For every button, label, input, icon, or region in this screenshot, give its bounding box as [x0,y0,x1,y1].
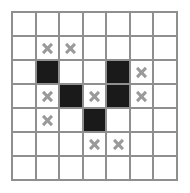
grid-cell[interactable] [13,37,37,61]
grid-cell[interactable] [107,13,131,37]
grid-cell[interactable] [60,133,84,157]
x-mark-icon [41,42,54,55]
grid-cell[interactable] [107,157,131,181]
grid-cell[interactable] [37,13,61,37]
x-mark-icon [64,42,77,55]
grid-cell[interactable] [37,85,61,109]
grid-cell[interactable] [60,37,84,61]
grid-cell[interactable] [60,85,84,109]
grid-cell[interactable] [37,157,61,181]
grid-cell[interactable] [84,13,108,37]
puzzle-grid[interactable] [11,11,178,181]
grid-cell[interactable] [37,133,61,157]
grid-cell[interactable] [154,37,178,61]
puzzle-grid-container [11,11,178,181]
grid-cell[interactable] [154,85,178,109]
grid-cell[interactable] [107,133,131,157]
grid-cell[interactable] [131,157,155,181]
grid-cell[interactable] [84,157,108,181]
grid-cell[interactable] [131,109,155,133]
grid-cell[interactable] [13,13,37,37]
grid-cell[interactable] [84,133,108,157]
grid-cell[interactable] [60,61,84,85]
grid-cell[interactable] [13,109,37,133]
grid-cell[interactable] [37,61,61,85]
x-mark-icon [41,90,54,103]
grid-cell[interactable] [13,133,37,157]
grid-cell[interactable] [131,13,155,37]
grid-cell[interactable] [84,61,108,85]
x-mark-icon [135,90,148,103]
grid-cell[interactable] [60,109,84,133]
grid-cell[interactable] [13,61,37,85]
grid-cell[interactable] [154,61,178,85]
grid-cell[interactable] [37,37,61,61]
grid-cell[interactable] [84,85,108,109]
grid-cell[interactable] [60,13,84,37]
x-mark-icon [88,90,101,103]
x-mark-icon [135,66,148,79]
grid-cell[interactable] [154,157,178,181]
grid-cell[interactable] [13,85,37,109]
grid-cell[interactable] [154,133,178,157]
x-mark-icon [88,138,101,151]
grid-cell[interactable] [131,61,155,85]
grid-cell[interactable] [154,13,178,37]
x-mark-icon [41,114,54,127]
grid-cell[interactable] [107,37,131,61]
x-mark-icon [112,138,125,151]
grid-cell[interactable] [131,133,155,157]
grid-cell[interactable] [107,85,131,109]
grid-cell[interactable] [84,37,108,61]
grid-cell[interactable] [13,157,37,181]
grid-cell[interactable] [107,109,131,133]
grid-cell[interactable] [131,85,155,109]
grid-cell[interactable] [60,157,84,181]
grid-cell[interactable] [131,37,155,61]
grid-cell[interactable] [37,109,61,133]
grid-cell[interactable] [84,109,108,133]
grid-cell[interactable] [154,109,178,133]
grid-cell[interactable] [107,61,131,85]
